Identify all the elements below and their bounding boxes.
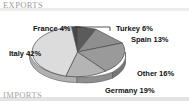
section-label-exports: EXPORTS <box>3 0 43 11</box>
pie-chart-area: France 4% Turkey 6% Spain 13% Other 16% … <box>0 11 189 90</box>
pie-label-france: France 4% <box>33 24 71 33</box>
exports-pie-chart-figure: EXPORTS <box>0 0 189 101</box>
section-header-imports: IMPORTS <box>0 90 189 101</box>
pie-label-other: Other 16% <box>137 69 174 78</box>
section-header-exports: EXPORTS <box>0 0 189 11</box>
pie-top-face <box>32 27 125 77</box>
section-label-imports: IMPORTS <box>3 90 42 101</box>
pie-label-italy: Italy 42% <box>9 49 41 58</box>
pie-label-turkey: Turkey 6% <box>116 24 153 33</box>
pie-label-spain: Spain 13% <box>131 35 169 44</box>
